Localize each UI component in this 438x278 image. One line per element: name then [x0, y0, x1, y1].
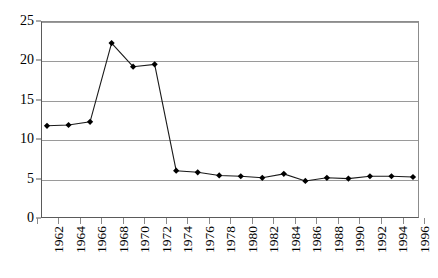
data-point-marker — [302, 178, 308, 184]
data-point-marker — [259, 175, 265, 181]
line-chart: 0510152025 19621964196619681970197219741… — [0, 0, 438, 278]
data-point-marker — [324, 175, 330, 181]
data-point-marker — [216, 172, 222, 178]
data-point-marker — [87, 119, 93, 125]
data-point-marker — [195, 169, 201, 175]
data-point-marker — [388, 173, 394, 179]
data-point-marker — [345, 176, 351, 182]
data-point-marker — [65, 122, 71, 128]
data-point-marker — [152, 61, 158, 67]
data-point-marker — [367, 173, 373, 179]
series-line — [47, 43, 413, 181]
data-series-layer — [0, 0, 438, 278]
data-point-marker — [281, 171, 287, 177]
data-point-marker — [410, 174, 416, 180]
data-point-marker — [173, 168, 179, 174]
data-point-marker — [238, 173, 244, 179]
data-point-marker — [44, 123, 50, 129]
